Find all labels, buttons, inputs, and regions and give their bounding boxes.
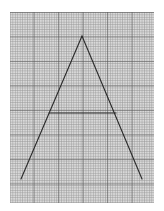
letter-a-drawing [0, 0, 164, 211]
left-stroke [21, 36, 82, 179]
right-stroke [82, 36, 142, 179]
